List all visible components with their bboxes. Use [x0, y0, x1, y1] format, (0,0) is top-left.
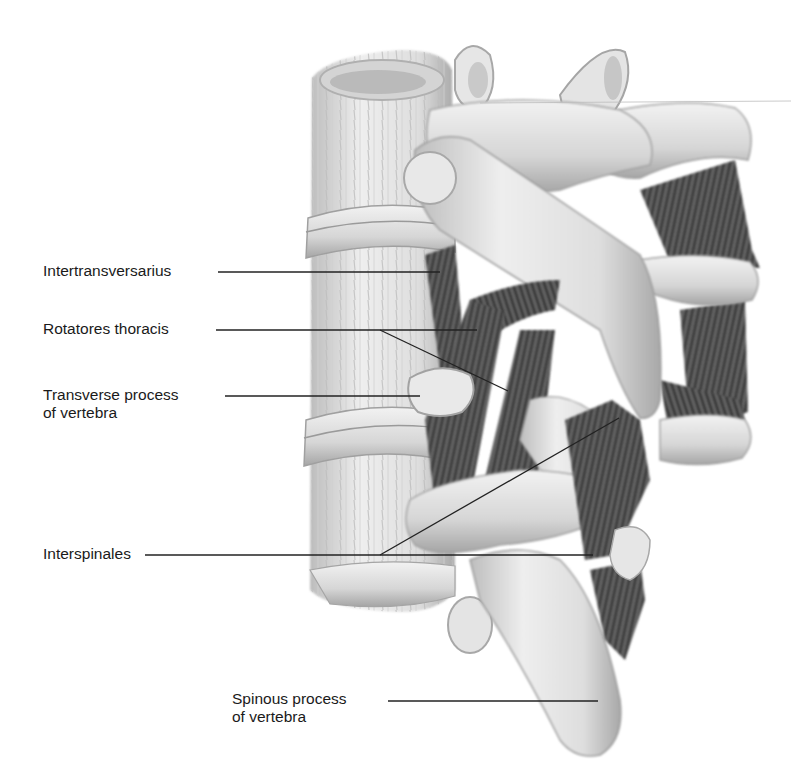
anatomy-figure: Intertransversarius Rotatores thoracis T…: [0, 0, 791, 765]
label-intertransversarius: Intertransversarius: [43, 262, 171, 280]
label-transverse-process: Transverse process of vertebra: [43, 386, 179, 422]
label-spinous-process: Spinous process of vertebra: [232, 690, 347, 726]
label-rotatores-thoracis: Rotatores thoracis: [43, 320, 169, 338]
label-interspinales: Interspinales: [43, 545, 131, 563]
transverse-process-knob: [408, 368, 473, 416]
spine-illustration: [0, 0, 791, 765]
